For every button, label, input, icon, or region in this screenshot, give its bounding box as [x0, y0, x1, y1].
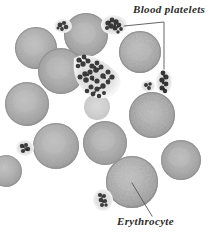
erythrocyte	[5, 82, 49, 126]
platelet	[16, 140, 34, 156]
platelet-cluster	[156, 70, 172, 94]
platelet-cluster	[101, 15, 127, 35]
erythrocyte	[83, 121, 127, 165]
label-blood-platelets: Blood platelets	[133, 4, 205, 15]
label-erythrocyte: Erythrocyte	[117, 216, 174, 227]
erythrocyte	[84, 94, 110, 120]
blood-smear-figure: Blood platelets Erythrocyte	[0, 0, 221, 235]
platelet	[93, 189, 113, 211]
erythrocyte	[33, 123, 79, 169]
platelet	[141, 80, 155, 92]
erythrocyte	[161, 140, 201, 180]
erythrocyte	[106, 156, 158, 208]
platelet	[54, 19, 72, 33]
micrograph-plate	[0, 0, 221, 235]
erythrocyte	[119, 31, 161, 73]
erythrocyte	[129, 92, 175, 138]
